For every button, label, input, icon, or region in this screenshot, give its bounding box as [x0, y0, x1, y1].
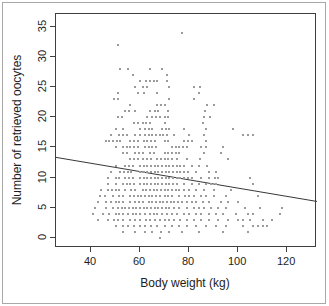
data-point [183, 165, 185, 167]
data-point [156, 104, 158, 106]
data-point [217, 177, 219, 179]
data-point [127, 171, 129, 173]
data-point [203, 152, 205, 154]
data-point [247, 231, 249, 233]
data-point [143, 207, 145, 209]
data-point [164, 225, 166, 227]
data-point [181, 231, 183, 233]
data-point [173, 134, 175, 136]
data-point [167, 189, 169, 191]
data-point [118, 201, 120, 203]
data-point [150, 207, 152, 209]
data-point [244, 207, 246, 209]
y-tick-label: 5 [36, 204, 48, 210]
data-point [128, 207, 130, 209]
data-point [144, 195, 146, 197]
x-axis-title: Body weight (kg) [140, 276, 229, 290]
data-point [200, 177, 202, 179]
y-axis-title: Number of retrieved oocytes [10, 55, 24, 206]
data-point [122, 183, 124, 185]
data-point [126, 146, 128, 148]
data-point [178, 152, 180, 154]
data-point [168, 177, 170, 179]
data-point [151, 195, 153, 197]
data-point [99, 195, 101, 197]
data-point [153, 189, 155, 191]
data-point [128, 177, 130, 179]
data-point [112, 140, 114, 142]
data-point [137, 146, 139, 148]
data-point [124, 207, 126, 209]
data-point [242, 219, 244, 221]
data-point [155, 201, 157, 203]
data-point [160, 189, 162, 191]
data-point [198, 165, 200, 167]
x-tick-label: 60 [133, 255, 145, 267]
data-point [115, 201, 117, 203]
data-point [179, 165, 181, 167]
data-point [252, 225, 254, 227]
data-point [205, 140, 207, 142]
y-tick-label: 15 [36, 140, 48, 152]
data-point [157, 207, 159, 209]
data-point [148, 128, 150, 130]
data-point [124, 177, 126, 179]
data-point [137, 122, 139, 124]
data-point [126, 183, 128, 185]
data-point [133, 195, 135, 197]
data-point [146, 158, 148, 160]
data-point [176, 213, 178, 215]
data-point [173, 201, 175, 203]
data-point [111, 189, 113, 191]
data-point [176, 165, 178, 167]
data-point [159, 195, 161, 197]
data-point [123, 171, 125, 173]
data-point [182, 146, 184, 148]
data-point [117, 92, 119, 94]
data-point [198, 231, 200, 233]
data-point [168, 128, 170, 130]
data-point [146, 140, 148, 142]
data-point [154, 183, 156, 185]
data-point [202, 201, 204, 203]
data-point [156, 80, 158, 82]
data-point [166, 134, 168, 136]
data-point [217, 207, 219, 209]
data-point [171, 225, 173, 227]
data-point [133, 158, 135, 160]
data-point [178, 195, 180, 197]
data-point [124, 165, 126, 167]
data-point [113, 219, 115, 221]
data-point [149, 213, 151, 215]
data-point [118, 177, 120, 179]
data-point [166, 74, 168, 76]
data-point [181, 201, 183, 203]
data-point [105, 207, 107, 209]
data-point [150, 171, 152, 173]
data-point [115, 213, 117, 215]
y-tick-mark [50, 237, 55, 238]
data-point [198, 92, 200, 94]
y-tick-label: 10 [36, 170, 48, 182]
data-point [117, 219, 119, 221]
data-point [176, 158, 178, 160]
data-point [115, 146, 117, 148]
x-tick-label: 40 [84, 255, 96, 267]
data-point [176, 177, 178, 179]
data-point [139, 183, 141, 185]
data-point [213, 104, 215, 106]
data-point [176, 171, 178, 173]
data-point [187, 140, 189, 142]
data-point [184, 195, 186, 197]
data-point [126, 152, 128, 154]
data-point [124, 189, 126, 191]
data-point [104, 195, 106, 197]
data-point [156, 189, 158, 191]
data-point [167, 152, 169, 154]
data-point [119, 171, 121, 173]
data-point [188, 134, 190, 136]
data-point [168, 183, 170, 185]
data-point [121, 116, 123, 118]
data-point [113, 98, 115, 100]
data-point [161, 68, 163, 70]
